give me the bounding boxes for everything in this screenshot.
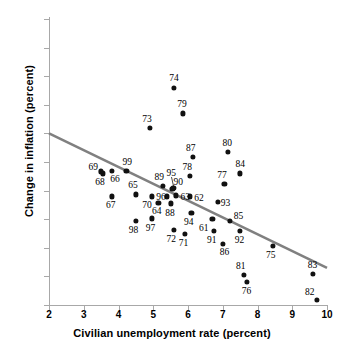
data-point (189, 210, 194, 215)
data-point (227, 218, 232, 223)
y-axis-title: Change in inflation (percent) (23, 26, 35, 256)
x-tick-label: 2 (37, 309, 61, 320)
data-point (149, 216, 154, 221)
data-point (171, 186, 176, 191)
y-tick-mark (44, 219, 49, 220)
x-tick-label: 3 (72, 309, 96, 320)
data-point (133, 192, 138, 197)
data-point-label: 73 (142, 114, 152, 124)
data-point (182, 231, 187, 236)
data-point (314, 297, 319, 302)
y-tick-mark (44, 19, 49, 20)
data-point-label: 78 (183, 162, 193, 172)
data-point-label: 68 (95, 177, 105, 187)
data-point-label: 75 (266, 250, 276, 260)
data-point (211, 228, 216, 233)
data-point (160, 183, 165, 188)
data-point-label: 62 (194, 193, 204, 203)
data-point (172, 85, 177, 90)
data-point-label: 77 (217, 170, 227, 180)
data-point (172, 227, 177, 232)
data-point-label: 86 (220, 247, 230, 257)
data-point-label: 97 (146, 223, 156, 233)
y-tick-mark (44, 276, 49, 277)
data-point-label: 87 (186, 143, 196, 153)
data-point-label: 98 (129, 225, 139, 235)
data-point (109, 194, 114, 199)
data-point-label: 65 (128, 180, 138, 190)
data-point-label: 84 (235, 159, 245, 169)
data-point (173, 193, 178, 198)
x-tick-label: 7 (211, 309, 235, 320)
data-point (244, 280, 249, 285)
data-point-label: 70 (142, 200, 152, 210)
data-point (109, 168, 114, 173)
data-point-label: 91 (207, 235, 217, 245)
y-tick-mark (44, 76, 49, 77)
data-point (180, 111, 185, 116)
x-tick-label: 4 (107, 309, 131, 320)
data-point-label: 67 (106, 200, 116, 210)
data-point (311, 271, 316, 276)
data-point (215, 199, 220, 204)
data-point-label: 79 (177, 99, 187, 109)
data-point (168, 201, 173, 206)
data-point-label: 69 (88, 162, 98, 172)
data-point-label: 72 (167, 234, 177, 244)
data-point-label: 76 (242, 286, 252, 296)
y-tick-mark (44, 248, 49, 249)
y-tick-mark (44, 191, 49, 192)
x-tick-label: 8 (246, 309, 270, 320)
data-point (149, 194, 154, 199)
data-point-label: 94 (184, 217, 194, 227)
data-point (225, 149, 230, 154)
data-point-label: 96 (156, 192, 166, 202)
data-point-label: 74 (169, 73, 179, 83)
data-point-label: 95 (167, 168, 177, 178)
data-point (271, 243, 276, 248)
data-point-label: 93 (221, 198, 231, 208)
data-point-label: 63 (180, 192, 190, 202)
data-point-label: 99 (122, 157, 132, 167)
data-point-label: 66 (110, 174, 120, 184)
x-axis-title: Civilian unemployment rate (percent) (0, 327, 344, 339)
scatter-chart: 643210-1-2-3-4 2345678910 61626364656667… (0, 0, 344, 349)
y-tick-mark (44, 133, 49, 134)
data-point (238, 229, 243, 234)
data-point-label: 61 (199, 223, 209, 233)
y-tick-mark (44, 48, 49, 49)
y-axis-line (49, 17, 50, 306)
data-point-label: 71 (179, 238, 189, 248)
data-point (124, 169, 129, 174)
data-point (133, 218, 138, 223)
data-point (191, 154, 196, 159)
data-point-label: 89 (154, 172, 164, 182)
x-tick-label: 6 (176, 309, 200, 320)
x-tick-label: 10 (315, 309, 339, 320)
data-point (187, 173, 192, 178)
data-point-label: 82 (305, 287, 315, 297)
data-point-label: 85 (234, 211, 244, 221)
x-tick-label: 9 (280, 309, 304, 320)
y-tick-mark (44, 105, 49, 106)
x-tick-label: 5 (141, 309, 165, 320)
data-point (241, 272, 246, 277)
data-point-label: 83 (308, 260, 318, 270)
data-point-label: 64 (152, 206, 162, 216)
data-point-label: 80 (223, 138, 233, 148)
data-point (238, 171, 243, 176)
data-point-label: 92 (235, 235, 245, 245)
y-tick-mark (44, 162, 49, 163)
data-point (220, 241, 225, 246)
data-point (147, 125, 152, 130)
data-point-label: 81 (236, 261, 246, 271)
data-point (222, 181, 227, 186)
data-point-label: 88 (165, 208, 175, 218)
data-point (210, 217, 215, 222)
